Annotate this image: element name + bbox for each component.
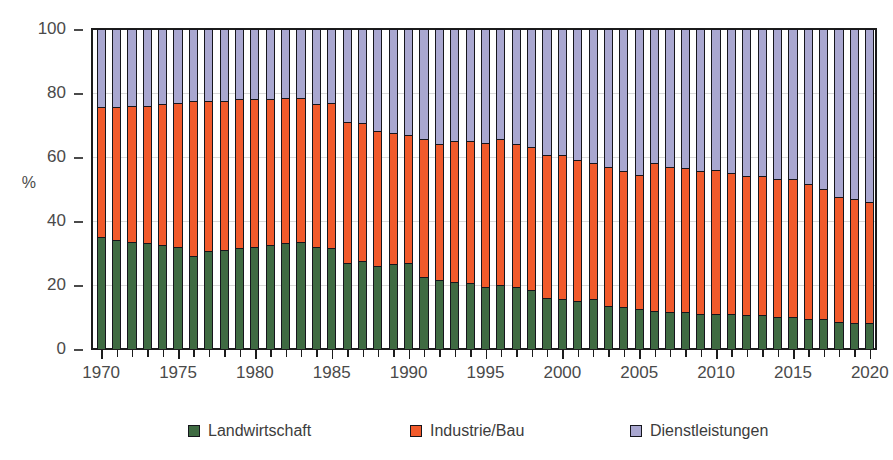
- x-tick-minor: [685, 349, 686, 357]
- legend-label: Industrie/Bau: [430, 423, 524, 439]
- bar-segment: [774, 29, 781, 179]
- bar-segment: [251, 99, 258, 246]
- legend-label: Landwirtschaft: [208, 423, 311, 439]
- bar-segment: [682, 168, 689, 312]
- bar-segment: [682, 29, 689, 168]
- bar-segment: [436, 280, 443, 349]
- bar-segment: [251, 29, 258, 99]
- bar-segment: [513, 144, 520, 286]
- bar-segment: [805, 319, 812, 349]
- bar-segment: [390, 29, 397, 133]
- bar-group: [92, 29, 876, 349]
- bar-segment: [513, 29, 520, 144]
- legend-item[interactable]: Landwirtschaft: [188, 423, 311, 439]
- bar: [296, 29, 305, 349]
- bar-segment: [374, 266, 381, 349]
- x-tick-minor: [240, 349, 241, 357]
- bar-segment: [482, 29, 489, 143]
- bar: [158, 29, 167, 349]
- x-tick-minor: [839, 349, 840, 357]
- bar-segment: [159, 245, 166, 349]
- bar: [696, 29, 705, 349]
- bar-segment: [543, 298, 550, 349]
- bar-segment: [390, 264, 397, 349]
- bar-segment: [851, 323, 858, 349]
- bar-segment: [297, 242, 304, 349]
- x-tick-label: 2005: [604, 364, 674, 381]
- bar-segment: [851, 29, 858, 199]
- bar-segment: [712, 29, 719, 170]
- bar-segment: [789, 317, 796, 349]
- x-tick-minor: [578, 349, 579, 357]
- bar-segment: [528, 29, 535, 147]
- bar-segment: [313, 104, 320, 246]
- y-tick-mark: [74, 157, 83, 159]
- bar-segment: [282, 243, 289, 349]
- x-tick-minor: [316, 349, 317, 357]
- bar: [573, 29, 582, 349]
- x-tick-minor: [608, 349, 609, 357]
- legend-item[interactable]: Dienstleistungen: [630, 423, 768, 439]
- bar-segment: [328, 103, 335, 249]
- x-tick-minor: [270, 349, 271, 357]
- bar-segment: [190, 256, 197, 349]
- legend-item[interactable]: Industrie/Bau: [410, 423, 524, 439]
- bar-segment: [144, 243, 151, 349]
- bar-segment: [605, 29, 612, 167]
- bar: [542, 29, 551, 349]
- bar-segment: [267, 245, 274, 349]
- bar-segment: [128, 106, 135, 242]
- bar-segment: [682, 312, 689, 349]
- bar-segment: [759, 29, 766, 176]
- x-tick-label: 2020: [835, 364, 893, 381]
- bar-segment: [174, 103, 181, 247]
- bar-segment: [743, 315, 750, 349]
- bar-segment: [451, 29, 458, 141]
- bar-segment: [666, 167, 673, 313]
- bar-segment: [297, 98, 304, 242]
- bar-segment: [497, 29, 504, 139]
- bar-segment: [651, 311, 658, 349]
- x-tick-minor: [655, 349, 656, 357]
- x-tick-minor: [193, 349, 194, 357]
- bar-segment: [728, 29, 735, 173]
- x-tick-major: [639, 349, 641, 359]
- bar-segment: [98, 29, 105, 107]
- bar-segment: [159, 29, 166, 104]
- bar-segment: [313, 29, 320, 104]
- bar-segment: [497, 139, 504, 285]
- bar-segment: [297, 29, 304, 98]
- bar: [143, 29, 152, 349]
- bar-segment: [866, 202, 873, 324]
- y-axis-label: %: [8, 174, 36, 192]
- x-tick-major: [793, 349, 795, 359]
- bar-segment: [651, 29, 658, 163]
- bar-segment: [451, 282, 458, 349]
- bar-segment: [359, 29, 366, 123]
- bar-segment: [590, 163, 597, 299]
- bar-segment: [482, 143, 489, 287]
- bar: [343, 29, 352, 349]
- bar-segment: [513, 287, 520, 349]
- bar: [389, 29, 398, 349]
- x-tick-major: [716, 349, 718, 359]
- bar-segment: [574, 160, 581, 301]
- y-tick-mark: [74, 349, 83, 351]
- bar-segment: [221, 101, 228, 250]
- bar-segment: [712, 314, 719, 349]
- bar-segment: [728, 173, 735, 314]
- bar-segment: [636, 309, 643, 349]
- x-tick-label: 1970: [66, 364, 136, 381]
- bar: [496, 29, 505, 349]
- bar-segment: [482, 287, 489, 349]
- bar-segment: [559, 29, 566, 155]
- bar-segment: [743, 29, 750, 176]
- bar-segment: [251, 247, 258, 349]
- y-tick-label: 80: [22, 84, 66, 101]
- x-tick-label: 1980: [220, 364, 290, 381]
- bar: [619, 29, 628, 349]
- bar: [758, 29, 767, 349]
- bar-segment: [805, 184, 812, 318]
- bar: [527, 29, 536, 349]
- x-axis-labels: 1970197519801985199019952000200520102015…: [0, 364, 893, 390]
